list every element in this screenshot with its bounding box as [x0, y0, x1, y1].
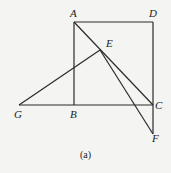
label-G: G: [14, 109, 22, 120]
label-B: B: [70, 109, 77, 120]
figure-lines: [0, 0, 171, 173]
segment-EF: [100, 50, 153, 134]
segment-AC: [74, 22, 153, 105]
geometry-figure: A D E G B C F (a): [0, 0, 171, 173]
label-A: A: [70, 8, 77, 19]
label-E: E: [106, 38, 113, 49]
label-D: D: [149, 8, 157, 19]
segment-GE: [19, 50, 100, 105]
label-C: C: [155, 100, 162, 111]
label-F: F: [152, 133, 159, 144]
figure-caption: (a): [80, 150, 91, 160]
